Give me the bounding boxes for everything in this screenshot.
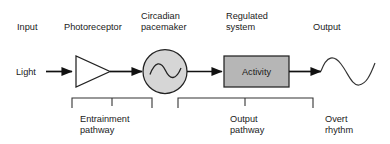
label-input: Input [17,22,38,32]
sine-wave-icon-output [321,58,375,85]
label-regulated-line1: Regulated [226,11,268,21]
label-output-pathway-line2: pathway [230,125,265,135]
label-output-top: Output [313,22,341,32]
label-output-pathway-line1: Output [230,114,258,124]
label-overt-rhythm-line1: Overt [325,114,348,124]
amplifier-triangle-icon [76,56,110,87]
label-pacemaker-line1: Circadian [141,11,180,21]
diagram-canvas: Input Photoreceptor Circadian pacemaker … [0,0,390,144]
label-entrainment-line2: pathway [80,125,115,135]
label-light: Light [16,67,36,77]
label-regulated-line2: system [226,22,255,32]
label-photoreceptor: Photoreceptor [64,22,122,32]
oscillator-circle-icon [143,50,187,94]
circadian-diagram: Input Photoreceptor Circadian pacemaker … [0,0,390,144]
label-entrainment-line1: Entrainment [80,114,130,124]
label-pacemaker-line2: pacemaker [141,22,186,32]
label-activity: Activity [242,67,272,77]
label-overt-rhythm-line2: rhythm [325,125,353,135]
